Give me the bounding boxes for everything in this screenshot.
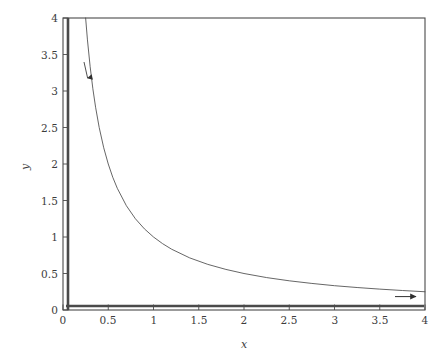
- xtick-label-8: 4: [422, 314, 429, 326]
- ytick-label-7: 3.5: [36, 49, 58, 61]
- hyperbola-trajectory: [86, 18, 425, 292]
- ytick-label-0: 0: [36, 304, 58, 316]
- xtick-label-4: 2: [241, 314, 248, 326]
- xtick-label-6: 3: [332, 314, 339, 326]
- ytick-label-1: 0.5: [36, 268, 58, 280]
- xtick-label-2: 1: [151, 314, 158, 326]
- x-axis-title: x: [241, 338, 247, 351]
- xtick-label-1: 0.5: [100, 314, 117, 326]
- xtick-label-5: 2.5: [281, 314, 298, 326]
- xtick-label-0: 0: [60, 314, 67, 326]
- flow-arrow-upper-icon: [84, 62, 88, 78]
- ytick-label-6: 3: [36, 85, 58, 97]
- y-axis-title: y: [19, 164, 32, 170]
- chart-figure: 0 0.5 1 1.5 2 2.5 3 3.5 4 0 0.5 1 1.5 2 …: [0, 0, 448, 362]
- plot-canvas: [0, 0, 448, 362]
- plot-frame: [63, 18, 425, 310]
- ytick-label-2: 1: [36, 231, 58, 243]
- xtick-label-7: 3.5: [372, 314, 389, 326]
- ytick-label-5: 2.5: [36, 122, 58, 134]
- ytick-label-3: 1.5: [36, 195, 58, 207]
- ytick-label-8: 4: [36, 12, 58, 24]
- ytick-label-4: 2: [36, 158, 58, 170]
- xtick-label-3: 1.5: [191, 314, 208, 326]
